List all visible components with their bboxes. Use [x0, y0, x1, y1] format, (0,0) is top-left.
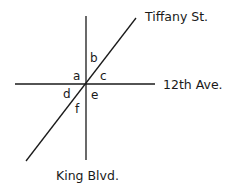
tiffany-st-label: Tiffany St. — [144, 9, 208, 24]
angle-label-b: b — [90, 51, 98, 65]
12th-ave-label: 12th Ave. — [163, 77, 223, 92]
tiffany-st-line — [26, 18, 136, 161]
angle-label-f: f — [75, 102, 80, 116]
street-intersection-diagram: Tiffany St. 12th Ave. King Blvd. a b c d… — [0, 0, 228, 190]
angle-label-a: a — [73, 69, 80, 83]
angle-label-d: d — [63, 87, 71, 101]
angle-label-e: e — [91, 88, 98, 102]
king-blvd-label: King Blvd. — [56, 168, 119, 183]
angle-label-c: c — [100, 69, 107, 83]
